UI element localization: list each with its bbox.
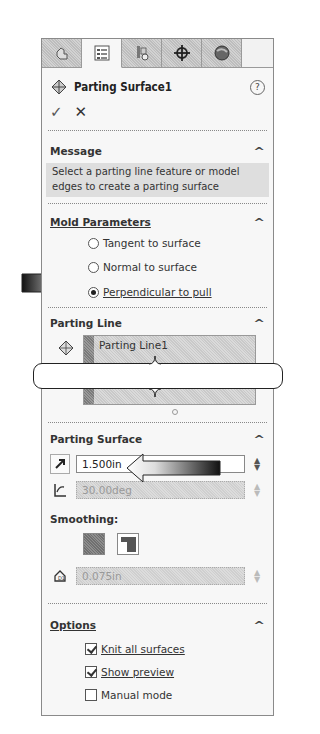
message-section-header[interactable]: Message ^ (50, 143, 263, 159)
message-text: Select a parting line feature or model e… (46, 163, 269, 197)
checkbox-knit-all-surfaces[interactable]: Knit all surfaces (85, 640, 185, 657)
mold-parameters-section-header[interactable]: Mold Parameters ^ (50, 214, 263, 230)
parting-surface-section-header[interactable]: Parting Surface ^ (50, 431, 263, 447)
section-title: Mold Parameters (50, 216, 255, 228)
divider (48, 203, 267, 204)
divider (48, 422, 267, 423)
smoothing-label: Smoothing: (50, 513, 118, 525)
brace-tip-bottom-icon (148, 388, 162, 398)
radio-label: Tangent to surface (103, 237, 201, 249)
page-title: Parting Surface1 (74, 80, 250, 94)
tab-configuration-manager[interactable] (122, 39, 162, 67)
tab-dimxpert-manager[interactable] (162, 39, 202, 67)
section-title: Options (50, 619, 255, 631)
radio-label: Normal to surface (103, 261, 197, 273)
checkbox-label: Knit all surfaces (101, 643, 185, 655)
reverse-direction-button[interactable] (50, 454, 70, 474)
action-buttons: ✓ ✕ (50, 103, 87, 121)
radio-button[interactable] (88, 262, 99, 273)
options-section-header[interactable]: Options ^ (50, 617, 263, 633)
collapse-caret-icon[interactable]: ^ (253, 620, 265, 631)
distance-spinner[interactable]: ▲▼ (249, 457, 265, 471)
divider (48, 603, 267, 604)
checkbox-label: Manual mode (101, 689, 172, 701)
list-item[interactable]: Parting Line1 (99, 339, 168, 351)
checkbox[interactable] (85, 643, 97, 655)
smoothing-distance-spinner[interactable]: ▲▼ (249, 569, 265, 583)
part-tree-icon (53, 44, 71, 62)
checkbox-label: Show preview (101, 666, 174, 678)
checkbox[interactable] (85, 689, 97, 701)
smoothing-distance-row: D1 0.075in ▲▼ (50, 565, 265, 587)
configuration-icon (133, 44, 151, 62)
crosshair-icon (173, 44, 191, 62)
tab-feature-manager[interactable] (42, 39, 82, 67)
property-list-icon (93, 44, 111, 62)
resize-handle[interactable] (172, 409, 178, 415)
section-title: Message (50, 145, 255, 157)
section-title: Parting Line (50, 317, 255, 329)
radio-tangent-to-surface[interactable]: Tangent to surface (88, 235, 201, 251)
radio-label: Perpendicular to pull (103, 286, 212, 298)
checkbox[interactable] (85, 666, 97, 678)
break-brace-overlay (33, 363, 283, 389)
smoothing-options (83, 533, 139, 555)
radio-button[interactable] (88, 238, 99, 249)
cancel-button[interactable]: ✕ (75, 103, 88, 121)
tab-display-manager[interactable] (202, 39, 242, 67)
parting-surface-icon (50, 78, 68, 96)
checkbox-manual-mode[interactable]: Manual mode (85, 686, 172, 703)
svg-text:D1: D1 (58, 575, 65, 581)
parting-line-icon (58, 340, 74, 356)
collapse-caret-icon[interactable]: ^ (253, 434, 265, 445)
direction-arrow-icon (53, 457, 67, 471)
draft-angle-icon (50, 480, 70, 500)
angle-spinner[interactable]: ▲▼ (249, 483, 265, 497)
section-title: Parting Surface (50, 433, 255, 445)
smoothing-distance-input[interactable]: 0.075in (76, 567, 245, 585)
appearance-sphere-icon (213, 44, 231, 62)
radio-perpendicular-to-pull[interactable]: Perpendicular to pull (88, 284, 212, 300)
divider (48, 130, 267, 131)
manager-tabs (42, 39, 273, 68)
radio-button[interactable] (88, 287, 99, 298)
ok-button[interactable]: ✓ (50, 103, 63, 121)
property-header: Parting Surface1 ? (50, 77, 265, 97)
divider (48, 307, 267, 308)
collapse-caret-icon[interactable]: ^ (253, 146, 265, 157)
tab-property-manager[interactable] (82, 39, 122, 68)
sharp-smoothing-button[interactable] (83, 533, 105, 555)
callout-arrow-icon (125, 452, 235, 484)
collapse-caret-icon[interactable]: ^ (253, 318, 265, 329)
radio-normal-to-surface[interactable]: Normal to surface (88, 259, 197, 275)
parting-line-section-header[interactable]: Parting Line ^ (50, 315, 263, 331)
help-icon[interactable]: ? (250, 80, 265, 95)
collapse-caret-icon[interactable]: ^ (253, 217, 265, 228)
smoothing-distance-icon: D1 (50, 566, 70, 586)
smooth-smoothing-button[interactable] (117, 533, 139, 555)
brace-tip-top-icon (148, 355, 162, 365)
checkbox-show-preview[interactable]: Show preview (85, 663, 174, 680)
